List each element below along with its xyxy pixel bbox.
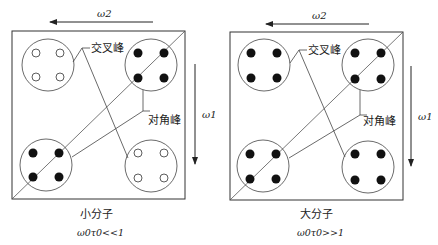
cross-peak-leader bbox=[73, 48, 90, 62]
peak-filled bbox=[351, 75, 360, 84]
cross-peak-leader-2 bbox=[299, 50, 345, 157]
peak-filled bbox=[377, 150, 386, 159]
peak-open bbox=[134, 149, 142, 157]
diagonal-peak-group-bottom bbox=[20, 139, 72, 191]
panel-caption: 大分子 bbox=[300, 207, 333, 221]
peak-filled bbox=[160, 49, 169, 58]
peak-filled bbox=[377, 49, 386, 58]
cross-peak-leader-2 bbox=[82, 48, 128, 158]
peak-filled bbox=[134, 74, 143, 83]
peak-filled bbox=[351, 49, 360, 58]
panel-small-molecule: ω2 交叉峰 对角峰 bbox=[12, 8, 217, 238]
cross-peak-label: 交叉峰 bbox=[308, 43, 341, 57]
diagonal-peak-group-top bbox=[342, 39, 394, 91]
peak-filled bbox=[134, 49, 143, 58]
diagonal-peak-group-top bbox=[125, 39, 177, 91]
peak-filled bbox=[55, 173, 64, 182]
peak-filled bbox=[246, 175, 255, 184]
omega2-label: ω2 bbox=[312, 10, 327, 21]
peak-filled bbox=[29, 149, 38, 158]
diagonal-peak-leader-2 bbox=[289, 115, 360, 158]
omega1-label: ω1 bbox=[418, 111, 433, 122]
peak-filled bbox=[247, 49, 256, 58]
peak-filled bbox=[272, 175, 281, 184]
peak-open bbox=[134, 174, 142, 182]
peak-open bbox=[160, 149, 168, 157]
peak-filled bbox=[273, 74, 282, 83]
cross-peak-leader bbox=[290, 50, 307, 63]
peak-open bbox=[160, 174, 168, 182]
cross-peak-group-top bbox=[22, 39, 74, 91]
diagonal-peak-label: 对角峰 bbox=[363, 114, 396, 128]
peak-filled bbox=[160, 74, 169, 83]
peak-open bbox=[32, 49, 40, 57]
cross-peak-group-top bbox=[238, 39, 290, 91]
peak-filled bbox=[272, 150, 281, 159]
diagonal-peak-leader bbox=[143, 90, 150, 111]
omega1-label: ω1 bbox=[202, 109, 217, 120]
panel-large-molecule: ω2 交叉峰 对角峰 ω1 大分子 bbox=[230, 10, 433, 238]
cross-peak-group-bottom bbox=[125, 140, 177, 192]
peak-filled bbox=[377, 176, 386, 185]
peak-open bbox=[56, 49, 64, 57]
diagonal-peak-label: 对角峰 bbox=[148, 113, 181, 127]
panel-condition: ω0τ0<<1 bbox=[77, 227, 124, 238]
peak-filled bbox=[55, 149, 64, 158]
omega2-label: ω2 bbox=[97, 8, 112, 19]
peak-filled bbox=[351, 176, 360, 185]
cross-peak-label: 交叉峰 bbox=[91, 41, 124, 55]
peak-open bbox=[32, 73, 40, 81]
peak-open bbox=[56, 73, 64, 81]
cross-peak-group-bottom bbox=[342, 141, 394, 193]
peak-filled bbox=[273, 49, 282, 58]
diagonal-peak-leader bbox=[360, 90, 367, 115]
peak-filled bbox=[29, 173, 38, 182]
peak-filled bbox=[351, 150, 360, 159]
peak-filled bbox=[247, 74, 256, 83]
panel-caption: 小分子 bbox=[80, 208, 113, 221]
diagonal-peak-group-bottom bbox=[237, 140, 289, 192]
peak-filled bbox=[246, 150, 255, 159]
panel-condition: ω0τ0>>1 bbox=[297, 227, 344, 238]
peak-filled bbox=[377, 75, 386, 84]
diagonal-peak-leader-2 bbox=[72, 111, 143, 157]
